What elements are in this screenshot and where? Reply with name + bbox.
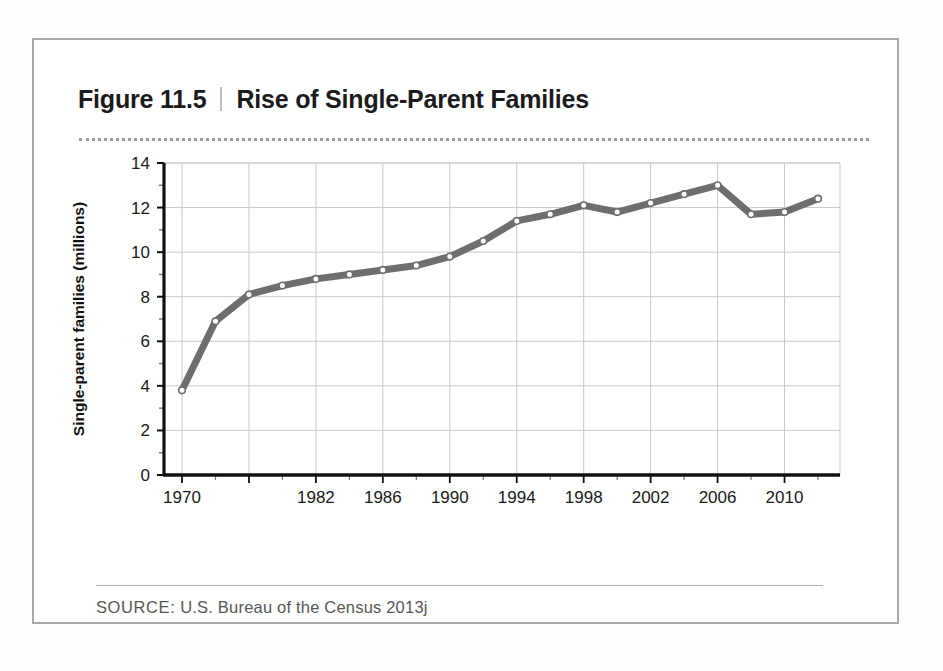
source-note: SOURCE: U.S. Bureau of the Census 2013j [96, 598, 428, 617]
data-point-marker [446, 253, 453, 260]
data-point-marker [179, 387, 186, 394]
chart-container: 02468101214 1970198219861990199419982002… [60, 145, 890, 545]
data-point-marker [815, 195, 822, 202]
data-point-marker [547, 211, 554, 218]
y-tick-label: 6 [141, 332, 150, 351]
data-point-marker [480, 238, 487, 245]
chart-gridlines [164, 163, 840, 475]
chart-minor-ticks [159, 185, 818, 480]
x-tick-label: 2006 [699, 488, 737, 507]
data-point-marker [647, 200, 654, 207]
source-citation: U.S. Bureau of the Census 2013j [180, 598, 427, 616]
y-tick-label: 12 [131, 199, 150, 218]
data-point-marker [513, 218, 520, 225]
figure-number: Figure 11.5 [78, 85, 206, 114]
figure-frame: Figure 11.5 Rise of Single-Parent Famili… [32, 38, 899, 624]
source-divider [96, 585, 823, 586]
data-series-line [182, 185, 818, 390]
data-point-marker [748, 211, 755, 218]
y-axis-title: Single-parent families (millions) [70, 202, 87, 436]
chart-axes [163, 163, 840, 475]
y-tick-label: 8 [141, 288, 150, 307]
x-tick-label: 1990 [431, 488, 469, 507]
page-title: Rise of Single-Parent Families [236, 85, 588, 114]
title-divider [220, 87, 222, 111]
data-point-marker [380, 267, 387, 274]
title-dotted-rule [79, 135, 869, 141]
data-point-marker [580, 202, 587, 209]
data-point-marker [781, 209, 788, 216]
x-tick-label: 1986 [364, 488, 402, 507]
data-point-marker [212, 318, 219, 325]
data-point-marker [279, 282, 286, 289]
x-tick-label: 1994 [498, 488, 536, 507]
data-point-marker [246, 291, 253, 298]
data-point-marker [313, 276, 320, 283]
y-axis-tick-labels: 02468101214 [131, 154, 150, 485]
x-tick-label: 1970 [163, 488, 201, 507]
y-tick-label: 10 [131, 243, 150, 262]
line-chart: 02468101214 1970198219861990199419982002… [60, 145, 890, 545]
y-tick-label: 2 [141, 421, 150, 440]
data-point-marker [413, 262, 420, 269]
data-point-marker [714, 182, 721, 189]
x-tick-label: 1982 [297, 488, 335, 507]
x-axis-tick-labels: 197019821986199019941998200220062010 [163, 488, 803, 507]
figure-title-row: Figure 11.5 Rise of Single-Parent Famili… [78, 84, 589, 114]
chart-major-ticks [157, 163, 785, 483]
data-point-marker [681, 191, 688, 198]
source-label: SOURCE: [96, 598, 175, 616]
x-tick-label: 1998 [565, 488, 603, 507]
y-tick-label: 0 [141, 466, 150, 485]
y-tick-label: 4 [141, 377, 150, 396]
x-tick-label: 2002 [632, 488, 670, 507]
data-point-marker [346, 271, 353, 278]
y-tick-label: 14 [131, 154, 150, 173]
data-point-marker [614, 209, 621, 216]
x-tick-label: 2010 [766, 488, 804, 507]
